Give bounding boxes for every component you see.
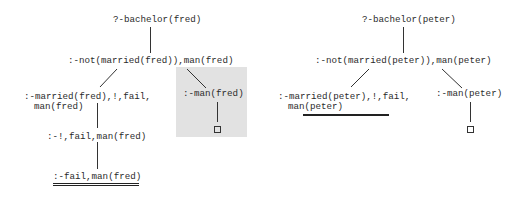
edge-fred-level1-to-man [187, 69, 206, 88]
peter-man-goal: :-man(peter) [436, 89, 502, 99]
peter-level1-goal: :-not(married(peter)),man(peter) [315, 56, 491, 66]
edge-fred-level1-to-married [100, 69, 117, 87]
fred-man-goal: :-man(fred) [183, 89, 244, 99]
peter-married-goal-line2: man(peter) [288, 102, 343, 112]
peter-empty-clause-icon [467, 126, 474, 133]
fred-fail-underline [53, 183, 139, 184]
fred-fail-underline-2 [53, 185, 139, 186]
fred-cut-goal: :-!,fail,man(fred) [47, 132, 146, 142]
fred-fail-goal: :-fail,man(fred) [53, 172, 141, 182]
fred-empty-clause-icon [214, 126, 221, 133]
fred-root-query: ?-bachelor(fred) [113, 15, 201, 25]
edge-peter-level1-to-married [351, 69, 369, 87]
peter-married-underline [303, 114, 389, 116]
sld-tree-diagram: ?-bachelor(fred) :-not(married(fred)),ma… [0, 0, 525, 199]
fred-married-goal-line2: man(fred) [34, 102, 84, 112]
fred-level1-goal: :-not(married(fred)),man(fred) [68, 56, 233, 66]
edge-peter-level1-to-man [442, 69, 462, 88]
peter-root-query: ?-bachelor(peter) [362, 15, 456, 25]
